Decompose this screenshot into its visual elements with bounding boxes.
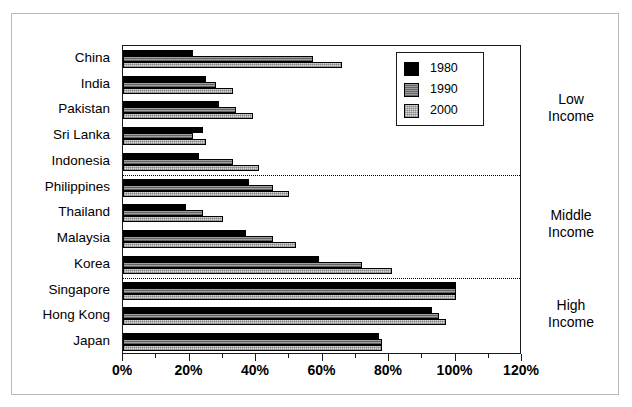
legend-label-1980: 1980 xyxy=(430,62,458,75)
y-label-india: India xyxy=(81,77,110,91)
y-label-malaysia: Malaysia xyxy=(57,231,110,245)
x-tick-label-120: 120% xyxy=(503,362,539,378)
x-tick-label-80: 80% xyxy=(374,362,402,378)
annotation-low-income-line2: Income xyxy=(524,108,618,125)
annotation-high-income-line1: High xyxy=(524,297,618,314)
annotation-middle-income: MiddleIncome xyxy=(524,207,618,241)
x-tick-label-20: 20% xyxy=(174,362,202,378)
bar-malaysia-2000 xyxy=(123,242,296,248)
y-label-pakistan: Pakistan xyxy=(58,102,110,116)
legend-entry-1990: 1990 xyxy=(404,79,483,100)
annotation-high-income-line2: Income xyxy=(524,314,618,331)
x-tick-100 xyxy=(455,354,456,361)
bar-china-2000 xyxy=(123,62,342,68)
bar-thailand-2000 xyxy=(123,216,223,222)
x-minor-tick-30 xyxy=(222,354,223,358)
x-minor-tick-10 xyxy=(155,354,156,358)
y-label-thailand: Thailand xyxy=(58,205,110,219)
y-label-japan: Japan xyxy=(73,334,110,348)
legend-entry-1980: 1980 xyxy=(404,58,483,79)
bar-chart: ChinaIndiaPakistanSri LankaIndonesiaPhil… xyxy=(0,0,632,407)
x-minor-tick-50 xyxy=(288,354,289,358)
y-axis-category-labels: ChinaIndiaPakistanSri LankaIndonesiaPhil… xyxy=(0,45,116,354)
y-label-philippines: Philippines xyxy=(45,180,110,194)
bar-korea-2000 xyxy=(123,268,392,274)
bar-singapore-2000 xyxy=(123,294,456,300)
divider-after-indonesia xyxy=(123,175,520,176)
y-label-sri-lanka: Sri Lanka xyxy=(53,128,110,142)
x-tick-label-40: 40% xyxy=(241,362,269,378)
annotation-middle-income-line1: Middle xyxy=(524,207,618,224)
x-tick-label-100: 100% xyxy=(437,362,473,378)
bar-india-2000 xyxy=(123,88,233,94)
y-label-indonesia: Indonesia xyxy=(51,154,110,168)
y-label-singapore: Singapore xyxy=(48,283,110,297)
legend-swatch-1980 xyxy=(404,62,419,76)
x-tick-0 xyxy=(122,354,123,361)
x-tick-20 xyxy=(189,354,190,361)
bar-indonesia-2000 xyxy=(123,165,259,171)
x-minor-tick-70 xyxy=(355,354,356,358)
x-minor-tick-110 xyxy=(488,354,489,358)
x-axis-tick-labels: 0%20%40%60%80%100%120% xyxy=(0,362,632,384)
legend-label-1990: 1990 xyxy=(430,83,458,96)
legend: 1980 1990 2000 xyxy=(396,52,484,126)
annotation-middle-income-line2: Income xyxy=(524,224,618,241)
legend-swatch-1990 xyxy=(404,83,419,97)
legend-swatch-2000 xyxy=(404,104,419,118)
annotation-low-income-line1: Low xyxy=(524,91,618,108)
legend-label-2000: 2000 xyxy=(430,104,458,117)
x-tick-label-0: 0% xyxy=(112,362,132,378)
bar-japan-2000 xyxy=(123,345,382,351)
x-tick-120 xyxy=(521,354,522,361)
x-minor-tick-90 xyxy=(421,354,422,358)
annotation-low-income: LowIncome xyxy=(524,91,618,125)
y-label-hong-kong: Hong Kong xyxy=(42,308,110,322)
legend-entry-2000: 2000 xyxy=(404,100,483,121)
y-label-china: China xyxy=(75,51,110,65)
bar-philippines-2000 xyxy=(123,191,289,197)
divider-after-korea xyxy=(123,278,520,279)
y-label-korea: Korea xyxy=(74,257,110,271)
x-tick-40 xyxy=(255,354,256,361)
bar-pakistan-2000 xyxy=(123,113,253,119)
x-tick-60 xyxy=(322,354,323,361)
income-group-annotations: LowIncomeMiddleIncomeHighIncome xyxy=(524,45,624,354)
bar-sri-lanka-2000 xyxy=(123,139,206,145)
annotation-high-income: HighIncome xyxy=(524,297,618,331)
x-tick-label-60: 60% xyxy=(307,362,335,378)
bar-hong-kong-2000 xyxy=(123,319,446,325)
x-tick-80 xyxy=(388,354,389,361)
